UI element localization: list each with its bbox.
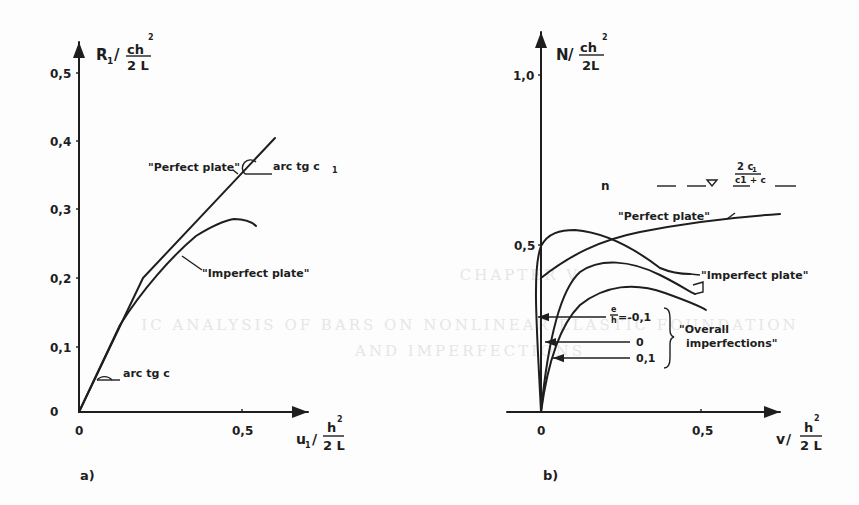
svg-text:/: / [568,46,574,64]
chart-b-perfect-plate-label: "Perfect plate" [618,210,710,223]
chart-b-panel-label: b) [543,468,558,483]
chart-a-imperfect-plate-label: "Imperfect plate" [202,267,309,280]
svg-text:0,4: 0,4 [50,135,71,149]
svg-text:h: h [611,316,617,325]
svg-text:"Overall: "Overall [679,323,729,336]
svg-text:c1 + c: c1 + c [735,175,766,185]
chart-a-panel-label: a) [80,468,95,483]
svg-text:ch: ch [580,40,597,55]
svg-text:2 c: 2 c [737,161,753,172]
svg-text:N: N [556,46,569,64]
chart-a-perfect-plate-label: "Perfect plate" [148,161,240,174]
chart-a: 0 0,1 0,2 0,3 0,4 0,5 0 0,5 R 1 / ch 2 2… [50,33,345,483]
chart-b-imperfect-pointer [693,282,703,294]
svg-text:2: 2 [148,33,154,42]
svg-text:ch: ch [127,42,144,57]
svg-text:/: / [312,431,318,447]
svg-text:e: e [611,305,617,314]
svg-text:0,5: 0,5 [692,424,713,438]
asymptote-marker-icon [707,180,717,186]
svg-text:0,1: 0,1 [50,341,71,355]
chart-a-y-label: R 1 / ch 2 2 L [96,33,154,73]
svg-text:h: h [327,420,336,435]
svg-text:0,2: 0,2 [50,272,71,286]
svg-text:0,5: 0,5 [232,424,253,438]
chart-b-ticks: 0,5 1,0 0 0,5 [513,69,713,438]
svg-text:1: 1 [752,166,757,174]
svg-text:h: h [804,420,813,435]
svg-text:/: / [786,431,792,447]
svg-text:=-0,1: =-0,1 [618,311,651,324]
svg-text:1: 1 [332,166,338,175]
svg-text:2 L: 2 L [323,438,345,453]
chart-b-y-label: N / ch 2 2L [556,33,608,73]
svg-text:CHAPTER V: CHAPTER V [460,266,580,284]
svg-text:0,5: 0,5 [50,67,71,81]
svg-text:0,5: 0,5 [514,239,535,253]
svg-text:0: 0 [50,405,58,419]
svg-text:2 L: 2 L [127,58,149,73]
svg-text:0,1: 0,1 [636,352,656,365]
svg-text:0,3: 0,3 [50,203,71,217]
svg-text:2L: 2L [582,58,599,73]
chart-b-asymptote: n 2 c 1 c1 + c [601,161,796,193]
svg-text:v: v [776,431,785,447]
svg-text:1,0: 1,0 [513,69,534,83]
chart-a-x-label: u 1 / h 2 2 L [296,415,345,453]
svg-text:2: 2 [337,415,343,424]
svg-text:/: / [114,46,120,64]
svg-text:2: 2 [814,414,820,423]
svg-text:0: 0 [75,424,83,438]
chart-a-slope-c-label: arc tg c [123,367,170,380]
svg-text:n: n [601,179,610,193]
svg-text:0: 0 [636,336,644,349]
svg-text:2: 2 [602,33,608,42]
chart-b: 0,5 1,0 0 0,5 N / ch 2 2L v / h 2 2 L n [507,32,822,483]
svg-text:imperfections": imperfections" [686,337,777,350]
chart-b-x-label: v / h 2 2 L [776,414,822,453]
svg-text:1: 1 [305,441,311,450]
svg-text:2 L: 2 L [800,438,822,453]
chart-a-y-ticks: 0 0,1 0,2 0,3 0,4 0,5 0 0,5 [50,67,253,438]
figure-canvas: CHAPTER V IC ANALYSIS OF BARS ON NONLINE… [0,0,859,505]
chart-b-imperfect-plate-label: "Imperfect plate" [701,269,808,282]
chart-b-overall-imperfection-labels: e h =-0,1 0 0,1 "Overall imperfections" [538,305,777,368]
chart-a-slope-c1-label: arc tg c [273,160,320,173]
svg-text:1: 1 [107,56,113,66]
svg-text:0: 0 [537,424,545,438]
